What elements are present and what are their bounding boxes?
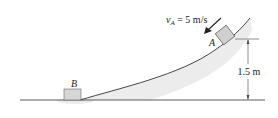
velocity-label: vA = 5 m/s: [166, 14, 207, 27]
ramp-diagram: B A vA = 5 m/s 1.5 m: [0, 0, 278, 118]
block-b: [64, 89, 81, 100]
block-a-label: A: [208, 37, 216, 48]
block-b-label: B: [71, 78, 77, 89]
height-label: 1.5 m: [238, 66, 261, 77]
